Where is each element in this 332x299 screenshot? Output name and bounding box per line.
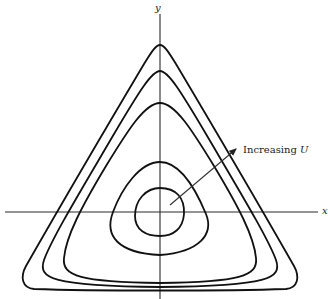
annotation-text: Increasing	[243, 144, 300, 155]
x-axis-label: x	[322, 206, 328, 216]
contour-2	[110, 162, 208, 255]
increasing-u-label: Increasing U	[243, 145, 308, 155]
increasing-arrow	[170, 149, 236, 205]
y-axis-label: y	[155, 3, 161, 13]
annotation-variable: U	[300, 144, 308, 155]
